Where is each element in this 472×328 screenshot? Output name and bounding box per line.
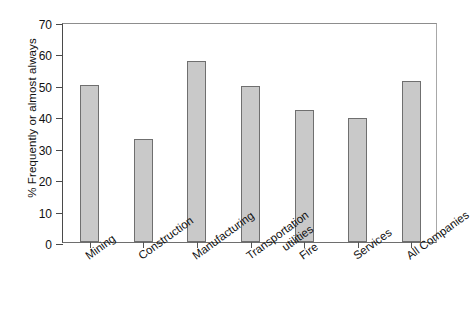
y-tick-label: 20 — [39, 175, 52, 189]
y-tick-50: 50 — [56, 87, 63, 88]
y-tick-60: 60 — [56, 55, 63, 56]
y-tick-10: 10 — [56, 213, 63, 214]
y-tick-20: 20 — [56, 181, 63, 182]
y-tick-70: 70 — [56, 24, 63, 25]
y-tick-label: 10 — [39, 207, 52, 221]
y-axis-title: % Frequently or almost always — [26, 0, 38, 238]
bar-mining — [80, 85, 99, 242]
bar-all-companies — [402, 81, 421, 242]
y-tick-label: 60 — [39, 49, 52, 63]
bar-manufacturing — [187, 61, 206, 242]
y-tick-label: 0 — [45, 238, 52, 252]
y-tick-label: 70 — [39, 18, 52, 32]
y-tick-label: 50 — [39, 81, 52, 95]
y-tick-label: 40 — [39, 112, 52, 126]
y-tick-40: 40 — [56, 118, 63, 119]
bar-services — [348, 118, 367, 242]
y-tick-30: 30 — [56, 150, 63, 151]
y-tick-label: 30 — [39, 144, 52, 158]
bar-construction — [134, 139, 153, 242]
y-tick-0: 0 — [56, 244, 63, 245]
